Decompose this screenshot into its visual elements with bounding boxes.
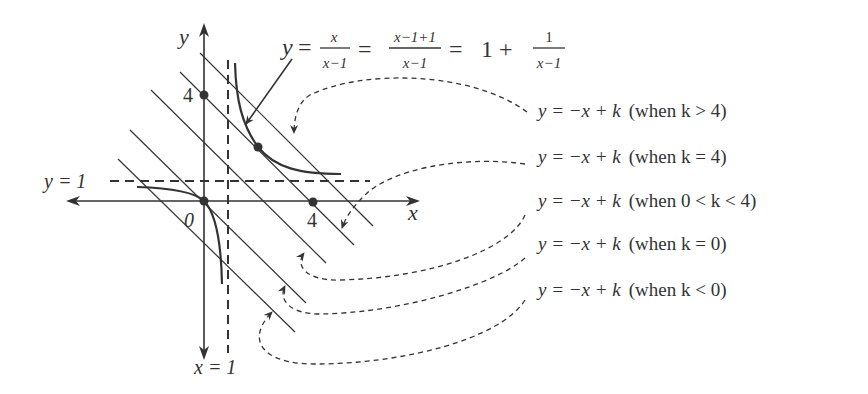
x-axis-label: x [407, 200, 418, 225]
x-axis [66, 196, 420, 206]
formula-frac3-num: 1 [545, 29, 553, 45]
legend-condition: (when k = 0) [629, 233, 727, 254]
formula-frac2-den: x−1 [402, 55, 427, 71]
leader-arrows [259, 78, 527, 364]
formula-frac2-num: x−1+1 [393, 29, 436, 45]
leader-k-equals-0 [283, 258, 525, 314]
legend-condition: (when k < 0) [629, 279, 727, 300]
legend-condition: (when k > 4) [629, 100, 727, 121]
y-axis-label: y [177, 24, 189, 49]
point-tangent-2-2 [254, 143, 263, 152]
leader-k-greater-4 [294, 78, 527, 133]
legend-item-k-equals-0: y = −x + k(when k = 0) [538, 233, 727, 255]
vertical-asymptote-label: x = 1 [193, 356, 236, 378]
legend-item-k-less-0: y = −x + k(when k < 0) [538, 279, 727, 301]
formula-frac1-den: x−1 [322, 55, 347, 71]
svg-text:=: = [358, 36, 372, 62]
svg-text:=: = [298, 34, 312, 60]
formula-frac1-num: x [330, 29, 338, 45]
horizontal-asymptote-label: y = 1 [42, 170, 86, 193]
legend-condition: (when 0 < k < 4) [629, 190, 757, 211]
x-tick-label-4: 4 [307, 209, 317, 231]
legend-equation: y = −x + k [538, 146, 621, 167]
y-axis [199, 23, 209, 360]
line-family [118, 53, 373, 332]
leader-k-equals-4 [342, 161, 525, 228]
legend-equation: y = −x + k [538, 279, 621, 300]
point-x-intercept-4 [309, 198, 318, 207]
legend-item-k-equals-4: y = −x + k(when k = 4) [538, 146, 727, 168]
formula-frac3-den: x−1 [536, 55, 561, 71]
function-formula: y = x x−1 = x−1+1 x−1 = 1 + 1 x−1 [280, 29, 565, 71]
point-y-intercept-4 [200, 91, 209, 100]
origin-label: 0 [184, 209, 194, 231]
point-origin [200, 197, 209, 206]
legend-equation: y = −x + k [538, 233, 621, 254]
legend-item-k-between-0-4: y = −x + k(when 0 < k < 4) [538, 190, 756, 212]
line-k-greater-4 [200, 53, 373, 226]
legend-equation: y = −x + k [538, 190, 621, 211]
formula-pointer-arrow [246, 59, 292, 124]
formula-lhs: y [280, 34, 293, 60]
legend-equation: y = −x + k [538, 100, 621, 121]
legend-item-k-greater-4: y = −x + k(when k > 4) [538, 100, 727, 122]
svg-text:=: = [449, 36, 463, 62]
formula-rhs-whole: 1 + [481, 36, 513, 62]
hyperbola-upper-branch [235, 63, 341, 174]
legend-condition: (when k = 4) [629, 146, 727, 167]
leader-k-less-0 [259, 300, 525, 364]
line-k-less-0 [118, 159, 295, 332]
y-tick-label-4: 4 [183, 84, 193, 106]
